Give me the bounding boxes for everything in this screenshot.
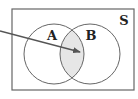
set-a-label: A xyxy=(46,28,58,43)
set-b-label: B xyxy=(86,28,97,43)
venn-diagram: A B S xyxy=(0,0,138,99)
universe-label: S xyxy=(119,13,128,28)
